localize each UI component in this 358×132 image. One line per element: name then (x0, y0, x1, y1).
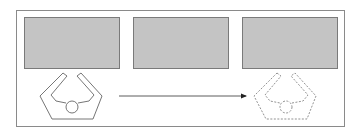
diagram-figure (0, 0, 358, 132)
panel-1 (25, 18, 120, 69)
panel-3 (243, 18, 338, 69)
shape-dashed (254, 73, 316, 119)
shape-solid (40, 73, 102, 119)
panel-2 (134, 18, 229, 69)
